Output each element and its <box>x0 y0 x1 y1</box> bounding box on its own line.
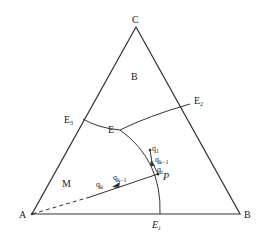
region-label-m: M <box>62 178 71 189</box>
label-p: P <box>162 171 169 182</box>
label-e: E <box>108 124 114 135</box>
ternary-diagram: C A B B M E3 E2 E E1 q1 qk−1 qi P qk−1 q… <box>0 0 265 242</box>
label-e3: E3 <box>64 114 73 126</box>
label-q1: q1 <box>152 144 159 154</box>
vertex-label-b: B <box>244 209 251 220</box>
label-e1: E1 <box>151 219 161 231</box>
boundary-e-e2 <box>120 104 190 130</box>
label-e2: E2 <box>194 95 203 107</box>
boundary-e-e1 <box>120 130 160 214</box>
boundary-e3-e <box>83 119 120 130</box>
vertex-label-c: C <box>132 14 139 25</box>
label-qk-minus-1-top: qk−1 <box>155 155 168 165</box>
label-qk-minus-1-lower: qk−1 <box>113 173 126 183</box>
region-label-b: B <box>131 71 138 82</box>
point-q1 <box>149 149 152 152</box>
label-qk: qk <box>96 180 103 190</box>
vertex-label-a: A <box>19 209 27 220</box>
point-a <box>31 213 33 215</box>
